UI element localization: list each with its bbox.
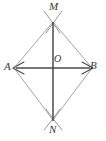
segment-NA [14, 68, 53, 120]
segment-BN [53, 68, 92, 120]
point-label-B: B [90, 60, 97, 71]
geometry-figure: M N A B O [0, 0, 106, 141]
point-O-marker [52, 67, 54, 69]
point-label-O: O [54, 53, 61, 64]
point-label-A: A [4, 61, 11, 72]
point-label-M: M [49, 1, 58, 12]
segment-AM [14, 22, 53, 68]
point-label-N: N [49, 124, 56, 135]
